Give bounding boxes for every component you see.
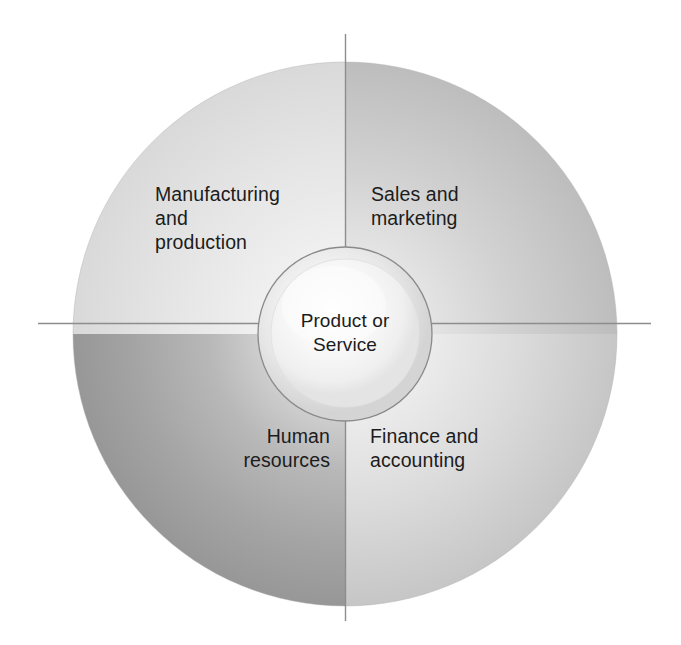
circle-diagram: Manufacturing and production Sales and m… xyxy=(0,0,681,645)
diagram-graphics xyxy=(0,0,681,645)
inner-circle-gloss xyxy=(282,266,386,346)
